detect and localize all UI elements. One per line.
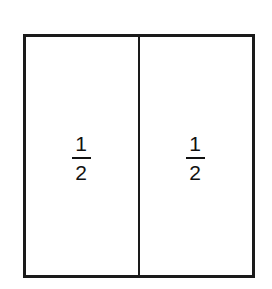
numerator: 1: [180, 134, 210, 154]
fraction-bar: [72, 157, 91, 159]
fraction-bar: [186, 157, 205, 159]
divider-line: [138, 36, 140, 276]
denominator: 2: [180, 163, 210, 183]
fraction-left: 1 2: [66, 134, 96, 183]
numerator: 1: [66, 134, 96, 154]
denominator: 2: [66, 163, 96, 183]
fraction-right: 1 2: [180, 134, 210, 183]
